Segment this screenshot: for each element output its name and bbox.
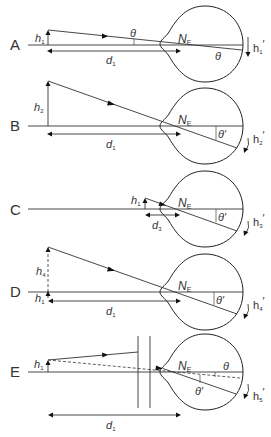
panel-label: A [10,36,20,53]
arrowhead-icon [48,413,53,418]
panel-label: C [10,201,21,218]
arrowhead-icon [48,299,53,304]
image-label: h5′ [253,386,265,403]
angle-a-label: θ [223,360,229,372]
image-label: h3′ [253,212,265,229]
arrowhead-icon [47,132,52,137]
nodal-point-label: NE [178,279,192,293]
angle-label: θ [130,27,136,39]
panel-c: C h1 d3 NE θ′ h3′ [10,171,265,247]
panel-label: E [10,363,20,380]
arrowhead-icon [46,30,51,35]
distance-label: d1 [106,54,116,67]
image-label: h1′ [253,38,265,55]
light-ray-dashed [48,360,240,378]
arrowhead-icon [102,34,108,39]
arrowhead-icon [244,231,249,237]
object-label: h1 [35,32,45,45]
distance-label: d3 [152,219,162,232]
arrowhead-icon [176,49,181,54]
arrowhead-icon [107,101,115,106]
object-label: h2 [34,101,44,114]
arrowhead-icon [47,49,52,54]
angle-inside-label: θ′ [218,128,227,140]
angle-b-label: θ′ [195,385,204,397]
panel-a: A h1 θ d1 NE θ h1′ [10,6,265,82]
arrowhead-icon [176,132,181,137]
object-label: h1 [34,358,44,371]
object2-label: h1 [35,292,45,305]
distance-label: d1 [106,138,116,151]
arrowhead-icon [176,299,181,304]
arrowhead-icon [46,360,51,365]
light-ray [48,352,138,360]
object-label: h4 [36,265,46,278]
image-arrow [246,138,249,150]
nodal-point-label: NE [178,113,192,127]
nodal-point-label: NE [178,32,192,46]
panel-label: D [10,283,21,300]
angle-inside-label: θ [215,50,221,62]
angle-inside-label: θ′ [218,211,227,223]
image-label: h4′ [253,295,265,312]
panel-e: E h1 θ θ′ NE h5′ d1 [10,334,265,432]
image-arrow [246,304,249,316]
nodal-point-label: NE [178,196,192,210]
panel-d: D h4 h1 d1 NE θ′ h4′ [10,247,265,330]
arrowhead-icon [176,413,181,418]
image-label: h2′ [253,129,265,146]
distance-label: d1 [106,305,116,318]
nodal-point-label: NE [178,359,192,373]
eye-outline [160,6,243,82]
arrowhead-icon [175,213,180,218]
light-ray [48,30,242,50]
arrowhead-icon [107,267,115,272]
image-arrow [246,384,249,396]
panel-label: B [10,117,20,134]
retinal-image-size-diagram: A h1 θ d1 NE θ h1′ B h2 [0,0,271,437]
arrowhead-icon [145,213,150,218]
distance-label: d1 [106,419,116,432]
arrowhead-icon [244,148,249,154]
object-label: h1 [131,194,141,207]
light-ray [48,81,237,148]
arrowhead-icon [244,314,249,320]
arrowhead-icon [244,394,249,400]
light-ray [48,247,237,314]
panel-b: B h2 d1 NE θ′ h2′ [10,81,265,164]
angle-inside-label: θ′ [216,294,225,306]
arrowhead-icon [102,353,108,358]
arrowhead-icon [246,52,251,57]
image-arrow [246,221,249,233]
